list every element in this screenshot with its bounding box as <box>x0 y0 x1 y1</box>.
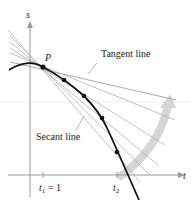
point-p <box>40 64 45 69</box>
rotation-arrow-icon <box>118 94 176 178</box>
s-axis <box>27 21 33 197</box>
secant-leader <box>76 116 84 130</box>
secant-tangent-diagram: s t P Tangent line Secant line t1 = 1 t2 <box>0 0 191 202</box>
t1-label: t1 = 1 <box>39 182 61 195</box>
point-p-label: P <box>44 52 51 63</box>
tangent-leader <box>88 63 97 74</box>
t2-label: t2 <box>113 182 120 195</box>
s-axis-label: s <box>26 9 30 20</box>
secant-line-label: Secant line <box>36 131 81 142</box>
tangent-line-label: Tangent line <box>101 48 151 59</box>
t-axis <box>8 172 185 178</box>
t-axis-label: t <box>183 170 186 181</box>
